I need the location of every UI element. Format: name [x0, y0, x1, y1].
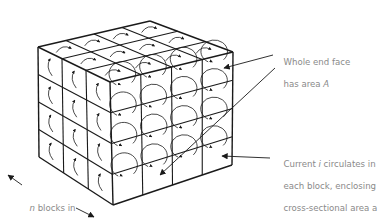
area-var-A: A: [323, 79, 329, 89]
current-suffix: circulates in: [321, 159, 376, 169]
current-label: Current i circulates in each block, encl…: [278, 148, 377, 214]
end-face-line2: has area: [283, 79, 323, 89]
end-face-line1: Whole end face: [283, 57, 350, 67]
current-line3: cross-sectional area a: [283, 203, 377, 213]
end-face-pointer: [224, 55, 273, 68]
current-line2: each block, enclosing: [283, 181, 376, 191]
current-pointer-short: [222, 156, 270, 158]
current-prefix: Current: [283, 159, 318, 169]
length-label: n blocks in this length: [24, 192, 76, 224]
end-face-label: Whole end face has area A: [278, 46, 350, 90]
length-arrow-front: [76, 208, 94, 217]
length-line1: blocks in: [35, 203, 76, 213]
length-arrow-back: [8, 175, 22, 185]
